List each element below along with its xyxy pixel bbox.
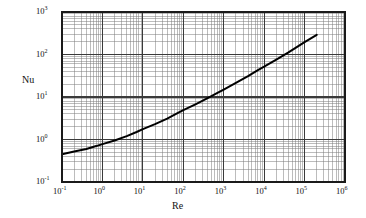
x-tick-label: 104 bbox=[255, 186, 267, 196]
y-tick-label: 10-1 bbox=[36, 176, 50, 186]
x-tick-label: 10-1 bbox=[53, 186, 67, 196]
y-axis-title: Nu bbox=[22, 74, 34, 85]
y-tick-label: 100 bbox=[36, 134, 48, 144]
x-tick-label: 100 bbox=[93, 186, 105, 196]
y-tick-label: 103 bbox=[36, 6, 48, 16]
x-tick-label: 105 bbox=[296, 186, 308, 196]
x-tick-label: 103 bbox=[215, 186, 227, 196]
x-axis-title: Re bbox=[172, 200, 183, 211]
x-tick-label: 102 bbox=[174, 186, 186, 196]
x-tick-label: 101 bbox=[134, 186, 146, 196]
x-tick-label: 106 bbox=[336, 186, 348, 196]
figure-log-log-chart: Nu Re 10-1100101102103104105106 10310210… bbox=[0, 0, 366, 218]
y-tick-label: 102 bbox=[36, 49, 48, 59]
y-tick-label: 101 bbox=[36, 91, 48, 101]
